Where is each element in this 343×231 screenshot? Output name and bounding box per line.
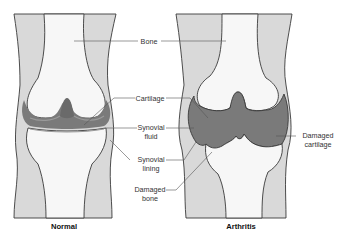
- label-synovial-fluid-1: Synovial: [137, 123, 165, 132]
- label-damaged-cartilage-1: Damaged: [302, 131, 333, 140]
- normal-caption: Normal: [51, 222, 77, 231]
- label-bone: Bone: [141, 37, 158, 46]
- knee-diagram: Normal Arthritis Bone Cartilage Synovial…: [0, 0, 343, 231]
- normal-knee: Normal: [14, 14, 116, 231]
- arthritis-caption: Arthritis: [226, 222, 256, 231]
- label-damaged-bone-2: bone: [142, 194, 158, 203]
- label-synovial-lining-2: lining: [143, 164, 160, 173]
- arthritic-knee: Arthritis: [176, 14, 292, 231]
- label-damaged-bone-1: Damaged: [134, 185, 165, 194]
- label-synovial-fluid-2: fluid: [144, 132, 157, 141]
- label-cartilage: Cartilage: [136, 94, 165, 103]
- lining-leader-left: [110, 140, 130, 160]
- label-damaged-cartilage-2: cartilage: [304, 140, 331, 149]
- label-synovial-lining-1: Synovial: [137, 155, 165, 164]
